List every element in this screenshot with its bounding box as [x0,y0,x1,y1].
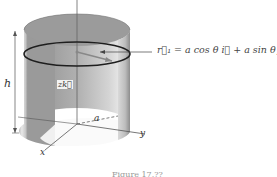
position-vector-equation: r⃗₁ = a cos θ i⃗ + a sin θ j⃗ [157,44,277,55]
z-component-label: zk⃗ [57,80,73,89]
x-axis-label: x [40,147,45,157]
y-axis-label: y [140,128,145,138]
figure-caption: Figure 17.?? [112,170,163,177]
radius-label: a [94,113,99,123]
height-label: h [4,77,11,90]
cylinder-outer-left [19,30,55,146]
